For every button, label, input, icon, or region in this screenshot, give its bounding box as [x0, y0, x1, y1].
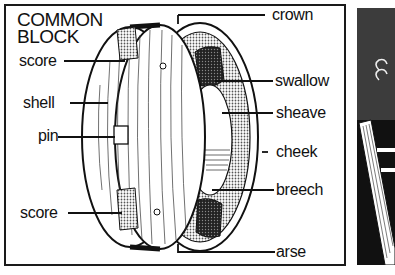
label-shell: shell [23, 95, 54, 111]
label-cheek: cheek [276, 144, 317, 160]
block-illustration [0, 0, 395, 275]
label-score-top: score [19, 53, 57, 69]
label-arse: arse [276, 244, 306, 260]
label-score-bottom: score [20, 205, 58, 221]
label-pin: pin [38, 128, 58, 144]
adjacent-illustration-panel [357, 8, 395, 265]
label-breech: breech [276, 182, 323, 198]
label-sheave: sheave [276, 105, 326, 121]
adjacent-illustration [357, 8, 395, 265]
label-crown: crown [272, 7, 313, 23]
label-swallow: swallow [275, 73, 329, 89]
